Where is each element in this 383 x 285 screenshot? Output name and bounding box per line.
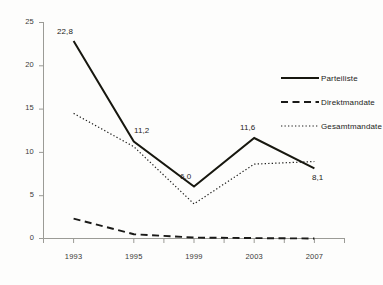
y-tick-label-25: 25 — [12, 17, 34, 26]
y-axis-ticks — [39, 23, 44, 239]
legend-label-parteiliste: Parteiliste — [321, 74, 358, 83]
legend-label-gesamtmandate: Gesamtmandate — [321, 122, 382, 131]
legend-item-direktmandate: Direktmandate — [321, 96, 375, 108]
data-label-1999: 6,0 — [180, 172, 191, 181]
data-label-2007: 8,1 — [312, 173, 323, 182]
line-chart: 25 20 15 10 5 0 1993 1995 1999 2003 2007… — [0, 0, 383, 285]
y-tick-label-0: 0 — [12, 233, 34, 242]
series-line-gesamtmandate — [74, 113, 315, 203]
legend-label-direktmandate: Direktmandate — [321, 98, 375, 107]
x-tick-label-2007: 2007 — [297, 252, 331, 261]
chart-plot-area — [0, 0, 383, 285]
series-line-parteiliste — [74, 41, 315, 187]
y-tick-label-5: 5 — [12, 190, 34, 199]
data-label-1995: 11,2 — [134, 126, 149, 135]
legend-item-gesamtmandate: Gesamtmandate — [321, 120, 382, 132]
data-label-2003: 11,6 — [240, 123, 255, 132]
legend-item-parteiliste: Parteiliste — [321, 72, 358, 84]
x-tick-label-2003: 2003 — [237, 252, 271, 261]
x-axis-ticks — [44, 239, 345, 244]
data-label-1993: 22,8 — [57, 27, 73, 36]
series-line-direktmandate — [74, 219, 315, 239]
x-tick-label-1999: 1999 — [177, 252, 211, 261]
y-tick-label-15: 15 — [12, 103, 34, 112]
y-tick-label-20: 20 — [12, 60, 34, 69]
y-tick-label-10: 10 — [12, 147, 34, 156]
x-tick-label-1995: 1995 — [117, 252, 151, 261]
x-tick-label-1993: 1993 — [57, 252, 91, 261]
